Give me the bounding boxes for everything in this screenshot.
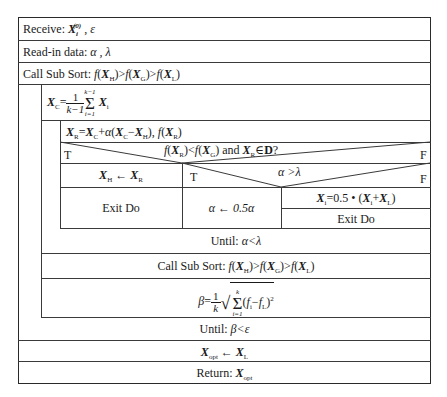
shrink-formula: Xi=0.5 • (Xi+XL) bbox=[281, 192, 431, 207]
beta-formula: β=1k√kΣi=1(fi−fL)2 bbox=[41, 282, 431, 323]
exit-do-2: Exit Do bbox=[281, 213, 431, 225]
cond2-true-label: T bbox=[190, 171, 197, 183]
exit-do-1: Exit Do bbox=[60, 202, 182, 214]
sort-row-1: Call Sub Sort: f(XH)>f(XG)>f(XL) bbox=[23, 68, 180, 83]
cond2-text: α >λ bbox=[278, 166, 301, 178]
cond1-text: f(XR)<f(XG) and XR∈D? bbox=[164, 144, 278, 159]
sort-row-2: Call Sub Sort: f(XH)>f(XG)>f(XL) bbox=[41, 260, 431, 275]
centroid-formula: XC=1k−1k−1Σi=1 Xi bbox=[47, 88, 109, 121]
cond1-false-label: F bbox=[420, 149, 427, 161]
assign-h: XH ← XR bbox=[60, 169, 182, 184]
cond2-false-label: F bbox=[420, 173, 427, 185]
until-alpha: Until: α<λ bbox=[41, 235, 431, 247]
assign-opt: Xopt ← XL bbox=[18, 346, 431, 361]
readin-row: Read-in data: α , λ bbox=[23, 46, 111, 58]
return-row: Return: Xopt bbox=[18, 367, 431, 382]
receive-vars: Xi(0) bbox=[68, 22, 81, 36]
alpha-half: α ← 0.5α bbox=[182, 202, 281, 214]
reflect-formula: XR=XC+α(XC−XH), f(XR) bbox=[66, 126, 182, 141]
cond1-true-label: T bbox=[64, 149, 71, 161]
receive-row: Receive: Xi(0) , ε bbox=[23, 23, 95, 38]
until-beta: Until: β<ε bbox=[18, 323, 431, 335]
